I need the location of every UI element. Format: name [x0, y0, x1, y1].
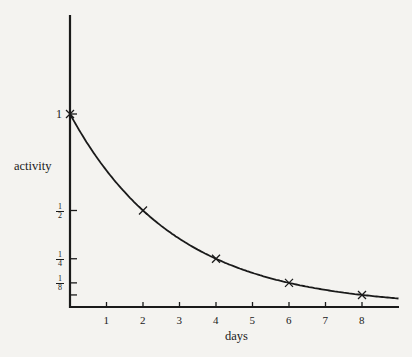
- x-tick-label: 6: [286, 315, 292, 326]
- x-axis-label: days: [225, 330, 248, 343]
- y-tick-label: 12: [56, 203, 64, 220]
- decay-curve: [70, 114, 399, 299]
- chart-canvas: [0, 0, 412, 357]
- x-tick-label: 4: [213, 315, 219, 326]
- x-tick-label: 5: [250, 315, 256, 326]
- x-tick-label: 1: [104, 315, 110, 326]
- x-tick-label: 7: [323, 315, 329, 326]
- x-tick-label: 2: [140, 315, 146, 326]
- y-tick-label: 18: [56, 275, 64, 292]
- data-markers: [66, 110, 366, 299]
- x-tick-label: 8: [359, 315, 365, 326]
- x-tick-label: 3: [177, 315, 183, 326]
- y-axis-label: activity: [14, 160, 52, 173]
- y-tick-label: 14: [56, 251, 64, 268]
- y-tick-label: 1: [56, 108, 62, 120]
